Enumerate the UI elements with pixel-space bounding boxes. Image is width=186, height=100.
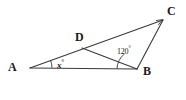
degree-symbol-x: ° — [62, 58, 65, 65]
angle-label-x: x° — [57, 59, 64, 70]
vertex-label-b: B — [143, 65, 151, 77]
angle-label-120: 120° — [117, 46, 131, 56]
segment-ac — [30, 20, 163, 68]
degree-symbol-120: ° — [128, 45, 130, 51]
vertex-label-d: D — [75, 31, 84, 43]
vertex-label-c: C — [167, 5, 176, 17]
angle-arc-a — [51, 60, 53, 68]
angle-120-value: 120 — [117, 47, 128, 56]
geometry-figure: A D B C x° 120° — [0, 0, 186, 100]
segment-bc — [137, 20, 163, 69]
vertex-label-a: A — [8, 61, 17, 73]
geometry-canvas — [0, 0, 186, 100]
segment-ab — [30, 68, 137, 69]
